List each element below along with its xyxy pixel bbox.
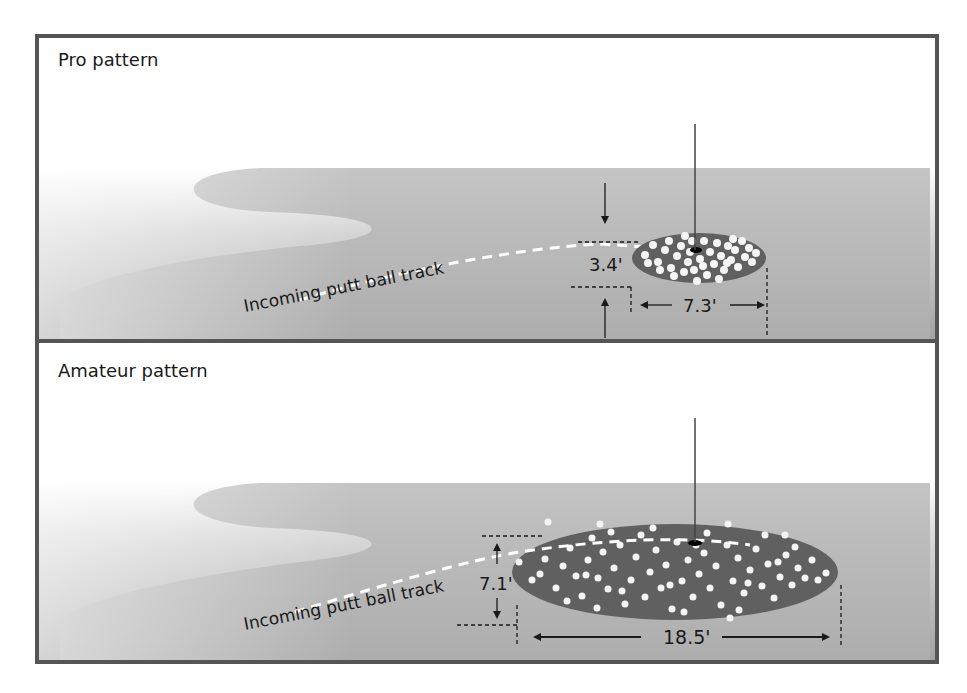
- pro-panel-title: Pro pattern: [58, 49, 158, 70]
- pro-panel: Incoming putt ball track: [38, 37, 936, 339]
- depth-label: 7.1': [479, 573, 513, 594]
- putting-pattern-diagram: Incoming putt ball track: [0, 0, 967, 693]
- diagram-canvas: Incoming putt ball track: [0, 0, 967, 693]
- width-label: 7.3': [683, 295, 717, 316]
- depth-label: 3.4': [589, 254, 623, 275]
- ball-dispersion-area: [512, 524, 838, 620]
- hole-icon: [690, 247, 702, 253]
- amateur-panel: Incoming putt ball track 7.1' 18.5': [38, 345, 936, 661]
- amateur-panel-title: Amateur pattern: [58, 360, 208, 381]
- width-label: 18.5': [663, 626, 711, 648]
